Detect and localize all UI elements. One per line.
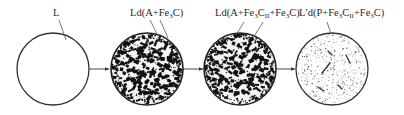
label-text: L′d(P+Fe (299, 7, 339, 18)
ledeburite-ii-leader-line-2 (253, 22, 263, 38)
liquid-circle (17, 33, 89, 105)
label-text: Ld(A+Fe (130, 7, 169, 18)
label-ledeburite-secondary-cementite: Ld(A+Fe3CII+Fe3C) (215, 7, 300, 19)
stage-transformed-ledeburite (296, 22, 368, 105)
stage-ledeburite (109, 20, 183, 105)
transformed-ledeburite-leader-line (327, 22, 331, 34)
label-text: +Fe (354, 7, 370, 18)
label-text: L (53, 7, 59, 18)
stage-liquid (17, 20, 89, 105)
label-liquid: L (53, 7, 59, 19)
label-transformed-ledeburite: L′d(P+Fe3CII+Fe3C) (299, 7, 384, 19)
label-text: Ld(A+Fe (215, 7, 254, 18)
stage-ledeburite-secondary-cementite (201, 22, 276, 105)
diagram-stage: L Ld(A+Fe3C) Ld(A+Fe3CII+Fe3C) L′d(P+Fe3… (0, 0, 404, 115)
label-text: C) (173, 7, 184, 18)
label-text: C) (374, 7, 385, 18)
label-ledeburite: Ld(A+Fe3C) (130, 7, 183, 19)
label-text: +Fe (269, 7, 285, 18)
label-text: C (258, 7, 265, 18)
